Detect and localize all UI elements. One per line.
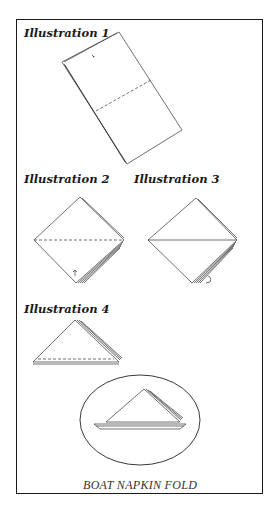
folding-diagrams xyxy=(0,0,278,518)
illustration-3-napkin-diagram xyxy=(148,198,237,283)
illustration-1-napkin-diagram xyxy=(62,32,182,164)
illustration-2-napkin-diagram xyxy=(34,197,124,283)
boat-fold-result-diagram xyxy=(80,375,200,465)
illustration-4-napkin-diagram xyxy=(33,320,122,364)
boat-napkin-fold-caption: BOAT NAPKIN FOLD xyxy=(83,478,197,493)
